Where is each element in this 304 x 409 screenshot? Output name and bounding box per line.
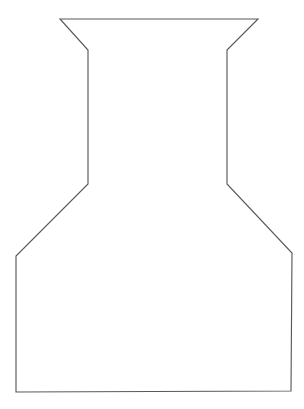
vase-outline-figure: [0, 0, 304, 409]
drawing-canvas: Vase outline Line-art outline drawing of…: [0, 0, 304, 409]
